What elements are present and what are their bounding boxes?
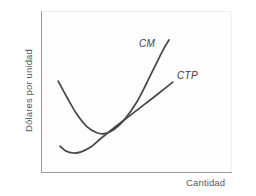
cost-curves-figure: Dólares por unidad CM CTP Cantidad	[0, 0, 256, 196]
ctp-series-label: CTP	[177, 70, 198, 81]
cm-series-label: CM	[139, 38, 155, 49]
ctp-curve	[60, 82, 173, 153]
x-axis-label: Cantidad	[186, 177, 225, 188]
curves-layer	[0, 0, 256, 196]
cm-curve	[58, 40, 169, 134]
